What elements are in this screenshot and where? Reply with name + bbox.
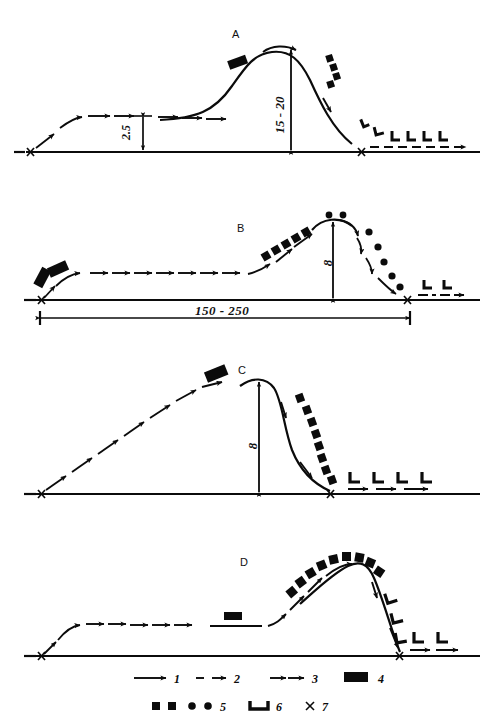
legend-symbol-x-cross <box>306 702 314 710</box>
panel-letter-b: B <box>237 222 245 234</box>
dots-b <box>326 212 404 291</box>
trajectory-curve-a <box>160 52 352 144</box>
legend-symbol-black-rectangle <box>344 672 368 682</box>
level-arrows-b <box>90 264 270 274</box>
panel-letter-d: D <box>240 556 248 568</box>
legend-number-2: 2 <box>233 672 240 686</box>
figure-legend: 1 2 3 4 5 6 7 <box>0 660 504 722</box>
u-symbols-ground-d <box>414 632 448 642</box>
u-symbols-b <box>424 280 452 288</box>
panel-b <box>0 190 504 340</box>
figure-sheet: A B C D 2.5 15 - 20 8 150 - 250 8 1 2 3 <box>0 0 504 722</box>
legend-number-3: 3 <box>311 672 318 686</box>
dimension-2-5-a <box>134 116 152 150</box>
trajectory-curve-d <box>300 563 400 652</box>
entry-arrows-d <box>44 625 80 654</box>
black-bar-symbols-b <box>33 260 69 288</box>
legend-number-1: 1 <box>174 672 180 686</box>
descent-arrows-d <box>372 582 398 648</box>
legend-number-5: 5 <box>220 700 226 714</box>
black-bar-symbol-c <box>204 364 229 382</box>
x-marker-start-a <box>14 148 34 156</box>
black-bar-symbol-d <box>224 612 242 620</box>
dimension-label-8-b: 8 <box>320 260 336 267</box>
legend-number-7: 7 <box>322 700 329 714</box>
legend-symbol-squares-and-dots <box>152 702 212 710</box>
x-marker-start-d <box>24 652 45 660</box>
dimension-label-15-20: 15 - 20 <box>272 97 288 134</box>
legend-number-6: 6 <box>276 700 282 714</box>
dimension-label-8-c: 8 <box>245 443 261 450</box>
peak-descend-arrow-b <box>340 220 358 236</box>
panel-a <box>0 0 504 180</box>
panel-d <box>0 520 504 670</box>
ascending-squares-b <box>261 227 312 262</box>
descending-squares-a <box>325 54 341 89</box>
legend-symbol-u-shape-bar <box>250 701 268 709</box>
level-arrows-a <box>88 116 226 119</box>
panel-c <box>0 350 504 510</box>
x-marker-start-c <box>24 490 45 498</box>
u-symbols-a <box>361 117 448 140</box>
panel-letter-c: C <box>238 364 246 376</box>
descending-squares-c <box>295 393 337 485</box>
level-arrows-d <box>86 624 192 625</box>
dimension-label-2-5: 2.5 <box>119 125 134 140</box>
panel-letter-a: A <box>232 28 240 40</box>
entry-arrows-a <box>36 117 82 148</box>
x-marker-start-b <box>24 296 45 304</box>
ascending-dashed-arrows-c <box>46 382 222 490</box>
entry-arrows-b <box>44 273 80 298</box>
u-symbols-c <box>350 472 432 482</box>
legend-number-4: 4 <box>377 672 384 686</box>
dimension-label-150-250: 150 - 250 <box>195 303 249 319</box>
